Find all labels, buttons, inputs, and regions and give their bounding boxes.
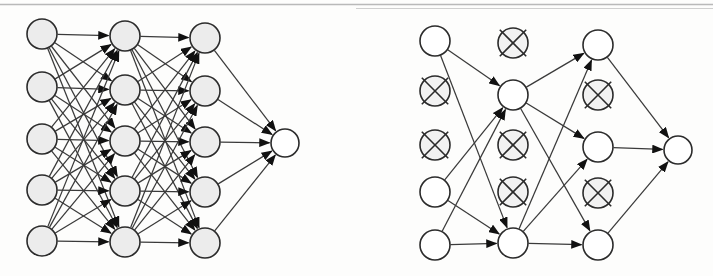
edge-L2-2-to-L3-0 xyxy=(221,142,270,143)
node-R3-0 xyxy=(664,136,692,164)
node-circle-L0-0 xyxy=(27,19,57,49)
edge-R0-3-to-R1-1 xyxy=(445,108,503,180)
node-L1-3 xyxy=(110,176,140,206)
node-circle-L0-2 xyxy=(27,124,57,154)
edge-R0-0-to-R1-1 xyxy=(448,50,500,86)
node-circle-L2-2 xyxy=(190,127,220,157)
edge-L2-0-to-L3-0 xyxy=(214,50,275,130)
node-L0-3 xyxy=(27,175,57,205)
node-R0-3 xyxy=(420,177,450,207)
node-L2-4 xyxy=(190,228,220,258)
node-R0-2 xyxy=(420,130,450,160)
edge-R1-4-to-R2-4 xyxy=(529,243,582,244)
edge-L0-4-to-L1-4 xyxy=(58,241,109,242)
edge-L2-4-to-L3-0 xyxy=(215,155,276,231)
node-circle-R0-0 xyxy=(420,26,450,56)
node-circle-R0-4 xyxy=(420,230,450,260)
edge-R0-4-to-R1-4 xyxy=(450,243,496,244)
node-circle-R1-1 xyxy=(498,80,528,110)
node-circle-R1-4 xyxy=(498,228,528,258)
node-R2-2 xyxy=(583,132,613,162)
node-R2-3 xyxy=(583,178,613,208)
node-R1-1 xyxy=(498,80,528,110)
node-circle-L0-4 xyxy=(27,226,57,256)
node-circle-L1-4 xyxy=(110,227,140,257)
edge-R2-4-to-R3-0 xyxy=(608,162,668,233)
edge-L1-4-to-L2-4 xyxy=(141,242,189,243)
node-L1-2 xyxy=(110,126,140,156)
edge-R1-1-to-R2-0 xyxy=(526,53,583,87)
node-R0-4 xyxy=(420,230,450,260)
node-circle-R2-4 xyxy=(583,230,613,260)
edge-L2-3-to-L3-0 xyxy=(218,151,272,184)
node-R0-0 xyxy=(420,26,450,56)
node-circle-L1-3 xyxy=(110,176,140,206)
node-circle-R2-0 xyxy=(583,30,613,60)
nodes-group xyxy=(27,19,692,260)
node-L2-2 xyxy=(190,127,220,157)
top-border-line xyxy=(0,5,713,9)
node-circle-R2-2 xyxy=(583,132,613,162)
node-L1-4 xyxy=(110,227,140,257)
node-R1-2 xyxy=(498,130,528,160)
node-L0-4 xyxy=(27,226,57,256)
node-circle-L1-2 xyxy=(110,126,140,156)
node-circle-L0-3 xyxy=(27,175,57,205)
node-L2-3 xyxy=(190,177,220,207)
edge-R1-1-to-R2-4 xyxy=(521,108,590,230)
edges-group xyxy=(48,34,669,244)
node-circle-L1-0 xyxy=(110,21,140,51)
node-R1-3 xyxy=(498,177,528,207)
node-L0-0 xyxy=(27,19,57,49)
node-circle-L2-4 xyxy=(190,228,220,258)
node-R1-4 xyxy=(498,228,528,258)
node-L3-0 xyxy=(271,129,299,157)
node-circle-L2-3 xyxy=(190,177,220,207)
node-L0-2 xyxy=(27,124,57,154)
node-circle-L2-1 xyxy=(190,76,220,106)
node-R0-1 xyxy=(420,76,450,106)
node-R2-1 xyxy=(583,80,613,110)
edge-L2-1-to-L3-0 xyxy=(218,99,272,134)
dropout-figure: (a) Standard Neural Net (b) After applyi… xyxy=(0,0,713,276)
node-L1-1 xyxy=(110,75,140,105)
node-L0-1 xyxy=(27,72,57,102)
node-circle-R3-0 xyxy=(664,136,692,164)
node-R2-4 xyxy=(583,230,613,260)
edge-R2-0-to-R3-0 xyxy=(607,57,668,137)
node-circle-L1-1 xyxy=(110,75,140,105)
node-circle-L0-1 xyxy=(27,72,57,102)
edge-L1-0-to-L2-0 xyxy=(141,36,189,37)
node-circle-L3-0 xyxy=(271,129,299,157)
node-L1-0 xyxy=(110,21,140,51)
edge-L0-0-to-L1-0 xyxy=(58,34,109,35)
node-R1-0 xyxy=(498,28,528,58)
node-circle-L2-0 xyxy=(190,23,220,53)
node-L2-1 xyxy=(190,76,220,106)
node-L2-0 xyxy=(190,23,220,53)
edge-R2-2-to-R3-0 xyxy=(613,148,662,150)
node-circle-R0-3 xyxy=(420,177,450,207)
network-diagram-canvas xyxy=(0,0,713,276)
node-R2-0 xyxy=(583,30,613,60)
